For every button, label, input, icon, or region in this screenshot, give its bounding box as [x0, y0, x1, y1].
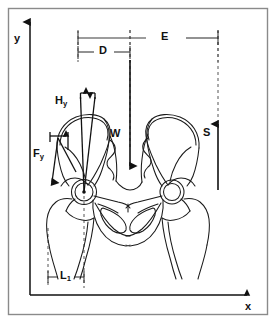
- dimension-L1-subscript: 1: [67, 274, 71, 283]
- dimension-L1-letter: L: [60, 269, 67, 281]
- vector-Fy-subscript: y: [40, 152, 44, 161]
- figure-border: [9, 9, 268, 315]
- axis-y-label: y: [14, 33, 20, 44]
- figure-canvas: [0, 0, 276, 323]
- axis-x-label: x: [245, 301, 251, 312]
- vector-Hy-letter: H: [55, 94, 63, 106]
- vector-Fy-label: Fy: [33, 148, 44, 161]
- dimension-E-label: E: [161, 31, 168, 42]
- left-hip-center-dot: [82, 190, 86, 194]
- vector-W-label: W: [110, 128, 120, 139]
- vector-S-label: S: [203, 127, 210, 138]
- vector-Hy-subscript: y: [63, 99, 67, 108]
- vector-Hy-label: Hy: [55, 95, 67, 108]
- biomechanics-figure: y x E D L1 Hy Fy W S: [0, 0, 276, 323]
- dimension-L1-label: L1: [60, 270, 71, 283]
- vector-Fy-letter: F: [33, 147, 40, 159]
- dimension-D-label: D: [99, 45, 107, 56]
